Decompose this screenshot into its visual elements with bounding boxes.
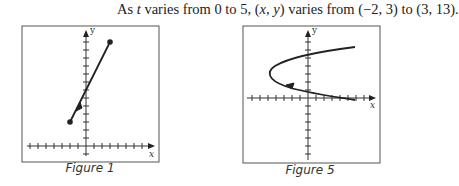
- figure-5-caption: Figure 5: [285, 163, 334, 177]
- fig5-y-label: y: [311, 25, 318, 35]
- fig1-x-label: x: [149, 149, 154, 159]
- fig1-y-label: y: [89, 25, 96, 35]
- figure-5: [243, 26, 380, 163]
- figure-1: [22, 26, 159, 162]
- fig5-x-label: x: [370, 100, 375, 110]
- figure-1-caption: Figure 1: [65, 161, 114, 175]
